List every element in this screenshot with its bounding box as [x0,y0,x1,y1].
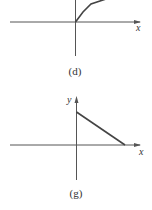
caption-d: (d) [69,66,82,77]
figure-g: y x (g) [0,90,152,210]
x-axis-label: x [139,147,143,157]
curve-d [76,0,107,22]
y-axis-label: y [67,95,71,105]
curve-g [77,112,126,145]
figure-d: x (d) [0,0,152,90]
y-axis-arrow-icon [75,96,79,103]
caption-g: (g) [70,188,83,199]
x-axis-label: x [136,23,140,33]
